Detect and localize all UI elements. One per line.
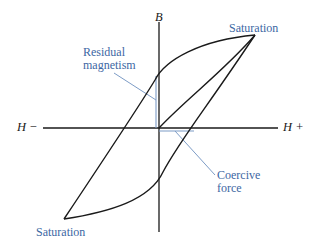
h-positive-label: H + bbox=[283, 121, 304, 134]
initial-magnetization-curve bbox=[159, 35, 255, 128]
saturation-top-label: Saturation bbox=[229, 22, 278, 35]
coercive-force-label: Coercive force bbox=[217, 169, 260, 195]
coercive-force-leader bbox=[175, 131, 215, 175]
hysteresis-diagram bbox=[0, 0, 320, 250]
residual-label-line2: magnetism bbox=[83, 59, 136, 72]
saturation-bottom-label: Saturation bbox=[36, 226, 85, 239]
residual-magnetism-leader bbox=[114, 73, 156, 100]
b-axis-label: B bbox=[155, 11, 163, 24]
h-negative-label: H − bbox=[17, 121, 38, 134]
coercive-label-line2: force bbox=[217, 182, 260, 195]
residual-magnetism-label: Residual magnetism bbox=[83, 46, 136, 72]
